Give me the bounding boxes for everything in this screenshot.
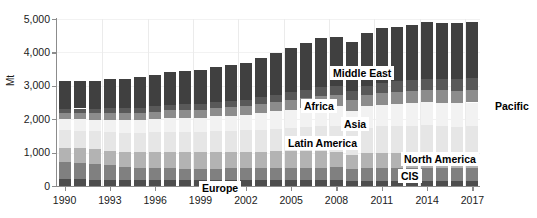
bar-segment-asia [119,120,131,133]
x-axis-tick-label: 2014 [415,194,438,206]
bar-segment-pacific [104,79,116,108]
bar-segment-latin-america [119,133,131,152]
bar-segment-cis [134,168,146,180]
y-axis-tick-label: 1,000 [0,147,50,158]
bar-segment-asia [59,119,71,130]
bar-segment-asia [270,111,282,128]
bar-segment-europe [179,180,191,186]
series-label-middle-east: Middle East [330,66,394,80]
bar-segment-asia [104,120,116,132]
bar-1999 [194,19,206,186]
bar-2009 [346,19,358,186]
bar-segment-asia [74,119,86,130]
bar-segment-latin-america [240,130,252,152]
bar-segment-europe [451,181,463,186]
y-axis-tick-mark [52,186,57,187]
bar-segment-europe [346,181,358,186]
bar-segment-africa [421,90,433,102]
bar-segment-middle-east [240,100,252,107]
bar-segment-europe [59,179,71,186]
bar-segment-africa [406,91,418,103]
bar-2005 [285,19,297,186]
bar-segment-asia [255,113,267,129]
bar-segment-latin-america [104,132,116,151]
bar-segment-cis [436,168,448,181]
bar-segment-asia [466,103,478,127]
bar-segment-middle-east [119,108,131,113]
bar-segment-europe [89,180,101,186]
series-label-latin-america: Latin America [285,136,360,150]
bar-segment-europe [436,181,448,186]
bar-segment-latin-america [255,130,267,152]
bar-segment-middle-east [421,79,433,90]
x-axis-tick-label: 1999 [189,194,212,206]
bar-segment-cis [194,169,206,180]
bar-segment-pacific [285,48,297,92]
bar-segment-pacific [315,38,327,87]
x-axis-tick-label: 1993 [98,194,121,206]
bar-segment-europe [164,180,176,186]
bar-2011 [376,19,388,186]
x-axis-tick-mark [472,186,473,191]
bar-2010 [361,19,373,186]
bar-2001 [225,19,237,186]
bar-segment-north-america [210,152,222,169]
bar-segment-north-america [285,151,297,168]
bar-segment-africa [179,110,191,118]
bar-segment-africa [285,100,297,110]
bar-segment-latin-america [210,131,222,152]
bar-segment-north-america [179,152,191,168]
x-axis-tick-label: 1996 [144,194,167,206]
x-axis-tick-mark [427,186,428,191]
bar-segment-cis [451,168,463,181]
bar-1990 [59,19,71,186]
bar-segment-latin-america [74,131,86,149]
bar-segment-africa [119,113,131,120]
bar-segment-pacific [59,81,71,108]
bar-segment-africa [74,113,86,120]
stacked-bar-chart: Mt 01,0002,0003,0004,0005,000 1990199319… [0,0,537,218]
bar-segment-north-america [59,148,71,162]
bar-2000 [210,19,222,186]
bar-segment-middle-east [74,109,86,113]
bar-segment-pacific [240,63,252,100]
bar-segment-cis [104,165,116,179]
bar-segment-middle-east [89,109,101,114]
bar-segment-middle-east [225,101,237,107]
bar-segment-middle-east [104,108,116,113]
bar-segment-asia [179,118,191,132]
bar-2002 [240,19,252,186]
y-axis-tick-label: 5,000 [0,14,50,25]
x-axis-tick-mark [155,186,156,191]
bar-segment-north-america [330,152,342,168]
bar-segment-latin-america [451,127,463,153]
x-axis-tick-mark [336,186,337,191]
bar-segment-latin-america [270,129,282,152]
bar-segment-africa [59,113,71,119]
bar-segment-north-america [255,152,267,169]
bar-segment-africa [376,93,388,105]
bar-segment-middle-east [164,105,176,111]
series-label-cis: CIS [398,169,422,183]
series-label-asia: Asia [341,117,369,131]
bar-1997 [164,19,176,186]
bar-segment-asia [89,120,101,132]
bar-segment-asia [134,120,146,133]
bar-segment-europe [134,180,146,186]
bar-segment-latin-america [376,126,388,153]
y-axis-tick-label: 4,000 [0,47,50,58]
bar-segment-pacific [210,67,222,102]
bar-segment-middle-east [300,90,312,98]
x-axis-tick-label: 2005 [279,194,302,206]
bar-1993 [104,19,116,186]
bar-segment-pacific [164,72,176,105]
bar-segment-europe [74,179,86,186]
bar-segment-cis [179,169,191,180]
bar-segment-africa [134,113,146,120]
x-axis-tick-label: 2017 [461,194,484,206]
y-axis-tick-label: 3,000 [0,80,50,91]
bar-segment-middle-east [330,86,342,95]
bar-segment-pacific [436,23,448,79]
bar-segment-middle-east [346,91,358,100]
bar-segment-latin-america [466,126,478,153]
